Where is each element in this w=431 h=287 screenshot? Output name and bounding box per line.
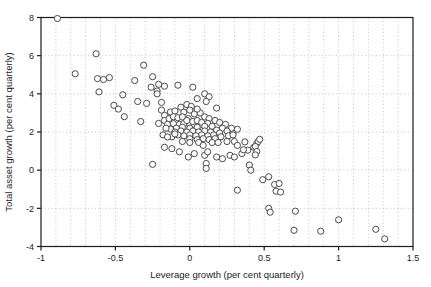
y-tick-label: 2: [29, 127, 34, 137]
scatter-point: [240, 147, 246, 153]
scatter-point: [106, 75, 112, 81]
y-tick-label: 4: [29, 89, 34, 99]
scatter-point: [115, 106, 121, 112]
scatter-point: [164, 134, 170, 140]
scatter-point: [150, 74, 156, 80]
scatter-point: [179, 138, 185, 144]
scatter-point: [163, 125, 169, 131]
scatter-point: [138, 118, 144, 124]
scatter-point: [230, 132, 236, 138]
scatter-point: [267, 209, 273, 215]
x-tick-label: 0.5: [258, 253, 271, 263]
x-tick-label: 1.5: [407, 253, 420, 263]
y-axis-title: Total asset growth (per cent quarterly): [3, 52, 14, 211]
scatter-point: [218, 134, 224, 140]
scatter-point: [278, 189, 284, 195]
scatter-point: [257, 136, 263, 142]
scatter-point: [203, 165, 209, 171]
scatter-point: [373, 226, 379, 232]
scatter-point: [156, 81, 162, 87]
scatter-point: [169, 146, 175, 152]
scatter-point: [234, 142, 240, 148]
scatter-point: [184, 117, 190, 123]
y-tick-label: 0: [29, 165, 34, 175]
scatter-point: [132, 77, 138, 83]
x-tick-label: 1: [336, 253, 341, 263]
scatter-point: [100, 76, 106, 82]
scatter-point: [121, 114, 127, 120]
scatter-point: [144, 100, 150, 106]
scatter-point: [217, 119, 223, 125]
scatter-point: [54, 15, 60, 21]
scatter-point: [187, 107, 193, 113]
y-tick-label: -4: [26, 242, 34, 252]
scatter-point: [185, 154, 191, 160]
scatter-point: [190, 84, 196, 90]
scatter-point: [205, 149, 211, 155]
scatter-point: [252, 152, 258, 158]
y-tick-label: -2: [26, 204, 34, 214]
scatter-point: [231, 154, 237, 160]
scatter-point: [219, 156, 225, 162]
scatter-point: [154, 91, 160, 97]
scatter-point: [203, 98, 209, 104]
scatter-point: [181, 133, 187, 139]
scatter-point: [175, 82, 181, 88]
scatter-point: [215, 139, 221, 145]
scatter-point: [176, 149, 182, 155]
x-tick-label: -0.5: [108, 253, 124, 263]
scatter-point: [161, 83, 167, 89]
scatter-point: [96, 89, 102, 95]
scatter-point: [161, 144, 167, 150]
scatter-point: [141, 62, 147, 68]
scatter-point: [172, 131, 178, 137]
scatter-figure: -1-0.500.511.5-4-202468 Leverage growth …: [0, 0, 431, 287]
scatter-point: [292, 208, 298, 214]
y-tick-label: 8: [29, 13, 34, 23]
scatter-point: [248, 167, 254, 173]
scatter-point: [94, 76, 100, 82]
scatter-point: [224, 138, 230, 144]
scatter-point: [318, 228, 324, 234]
scatter-point: [266, 174, 272, 180]
scatter-point: [336, 217, 342, 223]
scatter-point: [194, 106, 200, 112]
y-tick-label: 6: [29, 51, 34, 61]
scatter-point: [72, 71, 78, 77]
x-tick-label: 0: [187, 253, 192, 263]
scatter-point: [382, 236, 388, 242]
scatter-point: [214, 154, 220, 160]
x-axis-title: Leverage growth (per cent quarterly): [150, 269, 304, 280]
scatter-point: [276, 180, 282, 186]
scatter-point: [200, 142, 206, 148]
scatter-point: [158, 99, 164, 105]
scatter-point: [194, 96, 200, 102]
scatter-point: [187, 139, 193, 145]
scatter-point: [260, 177, 266, 183]
scatter-point: [234, 126, 240, 132]
scatter-point: [156, 120, 162, 126]
scatter-point: [242, 139, 248, 145]
scatter-point: [291, 227, 297, 233]
scatter-point: [135, 98, 141, 104]
scatter-point: [120, 92, 126, 98]
scatter-point: [209, 139, 215, 145]
scatter-plot-canvas: -1-0.500.511.5-4-202468 Leverage growth …: [0, 0, 431, 287]
scatter-point: [234, 187, 240, 193]
scatter-point: [191, 151, 197, 157]
scatter-point: [148, 84, 154, 90]
scatter-point: [214, 105, 220, 111]
x-tick-label: -1: [37, 253, 45, 263]
scatter-point: [150, 161, 156, 167]
scatter-point: [93, 51, 99, 57]
